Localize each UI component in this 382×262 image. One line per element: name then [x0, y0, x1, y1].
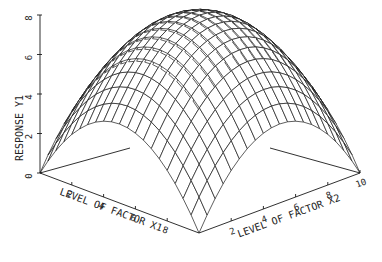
z-tick-label: 4 — [24, 94, 34, 99]
z-tick-label: 8 — [24, 15, 34, 20]
mesh-cell — [336, 133, 352, 161]
x1-axis-label: LEVEL OF FACTOR X1 — [58, 186, 164, 233]
z-axis-label: RESPONSE Y1 — [14, 95, 25, 161]
surface-plot-svg: 024682468246810 RESPONSE Y1 LEVEL OF FAC… — [0, 0, 382, 262]
x2-tick-label: 2 — [228, 226, 237, 237]
surface-plot: 024682468246810 RESPONSE Y1 LEVEL OF FAC… — [0, 0, 382, 262]
x2-tick-label: 10 — [354, 177, 368, 190]
mesh-cell — [344, 143, 360, 173]
z-tick-label: 2 — [24, 134, 34, 139]
mesh-cell — [48, 133, 64, 161]
z-tick-label: 0 — [24, 173, 34, 178]
z-tick-label: 6 — [24, 55, 34, 60]
mesh-cell — [40, 143, 56, 173]
